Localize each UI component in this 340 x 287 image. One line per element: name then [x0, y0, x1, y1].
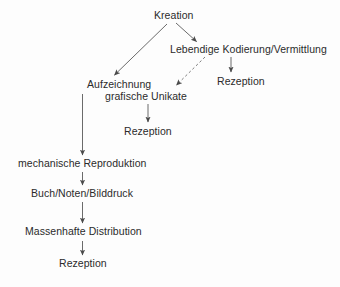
- edge-kreation-to-lebendige: [176, 23, 197, 42]
- node-lebendige-kodierung-vermittlung: Lebendige Kodierung/Vermittlung: [170, 43, 327, 55]
- edge-kreation-to-aufzeichnung: [115, 24, 168, 75]
- node-rezeption-middle: Rezeption: [124, 125, 172, 137]
- node-rezeption-right: Rezeption: [217, 75, 265, 87]
- node-aufzeichnung-line-1: Aufzeichnung: [87, 78, 151, 90]
- node-massenhafte-distribution: Massenhafte Distribution: [25, 225, 142, 237]
- flowchart-diagram: Kreation Lebendige Kodierung/Vermittlung…: [0, 0, 340, 287]
- node-buch-noten-bilddruck: Buch/Noten/Bilddruck: [31, 187, 133, 199]
- node-mechanische-reproduktion: mechanische Reproduktion: [18, 157, 146, 169]
- node-aufzeichnung-line-2: grafische Unikate: [87, 91, 187, 103]
- node-aufzeichnung-grafische-unikate: Aufzeichnung grafische Unikate: [87, 79, 187, 102]
- node-kreation: Kreation: [154, 9, 194, 21]
- node-rezeption-bottom: Rezeption: [59, 257, 107, 269]
